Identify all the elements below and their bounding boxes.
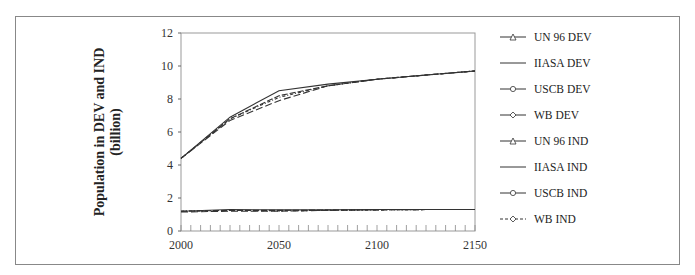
line-marker-icon	[500, 162, 526, 172]
y-tick-label: 6	[167, 125, 173, 139]
legend-item-iiasa-dev: IIASA DEV	[500, 50, 670, 76]
legend-label: WB DEV	[534, 109, 579, 121]
legend-item-un96-dev: UN 96 DEV	[500, 24, 670, 50]
legend-label: WB IND	[534, 213, 576, 225]
y-tick-label: 0	[167, 224, 173, 238]
y-tick-label: 10	[161, 59, 173, 73]
line-marker-icon	[500, 58, 526, 68]
x-tick-label: 2150	[463, 238, 487, 252]
legend-item-wb-dev: WB DEV	[500, 102, 670, 128]
legend-item-uscb-dev: USCB DEV	[500, 76, 670, 102]
legend-label: UN 96 IND	[534, 135, 588, 147]
legend-item-uscb-ind: USCB IND	[500, 180, 670, 206]
x-tick-label: 2100	[365, 238, 389, 252]
y-axis-label-line1: Population in DEV and IND	[92, 32, 108, 232]
y-tick-label: 8	[167, 92, 173, 106]
circle-marker-icon	[500, 188, 526, 198]
y-tick-label: 4	[167, 158, 173, 172]
diamond-marker-icon	[500, 214, 526, 224]
series-line-iiasa-dev	[181, 71, 475, 158]
x-tick-label: 2000	[169, 238, 193, 252]
diamond-marker-icon	[500, 110, 526, 120]
legend-label: USCB IND	[534, 187, 587, 199]
x-tick-label: 2050	[267, 238, 291, 252]
plot-border	[181, 33, 475, 231]
y-axis-label: Population in DEV and IND (billion)	[92, 32, 124, 232]
legend-item-wb-ind: WB IND	[500, 206, 670, 232]
legend: UN 96 DEV IIASA DEV USCB DEV WB DEV UN 9…	[500, 24, 670, 232]
legend-label: USCB DEV	[534, 83, 591, 95]
y-tick-label: 12	[161, 26, 173, 40]
legend-label: IIASA DEV	[534, 57, 591, 69]
legend-item-iiasa-ind: IIASA IND	[500, 154, 670, 180]
legend-label: UN 96 DEV	[534, 31, 592, 43]
circle-marker-icon	[500, 84, 526, 94]
y-axis-label-line2: (billion)	[108, 32, 124, 232]
y-tick-label: 2	[167, 191, 173, 205]
triangle-marker-icon	[500, 136, 526, 146]
legend-label: IIASA IND	[534, 161, 587, 173]
triangle-marker-icon	[500, 32, 526, 42]
legend-item-un96-ind: UN 96 IND	[500, 128, 670, 154]
